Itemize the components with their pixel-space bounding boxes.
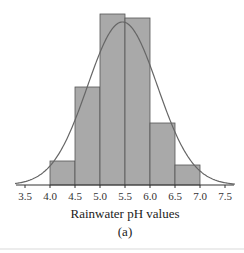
- x-axis-ticks: 3.54.04.55.05.56.06.57.07.5: [18, 185, 232, 202]
- histogram-bar: [50, 161, 75, 185]
- panel-label: (a): [118, 224, 132, 239]
- x-tick-label: 6.5: [168, 190, 182, 202]
- histogram-bar: [125, 18, 150, 185]
- histogram-bars: [50, 14, 200, 185]
- x-tick-label: 7.5: [218, 190, 232, 202]
- x-axis-title: Rainwater pH values: [70, 206, 179, 221]
- x-tick-label: 5.0: [93, 190, 107, 202]
- x-tick-label: 4.5: [68, 190, 82, 202]
- histogram-bar: [75, 87, 100, 185]
- x-tick-label: 6.0: [143, 190, 157, 202]
- bottom-divider: [0, 248, 244, 250]
- x-tick-label: 3.5: [18, 190, 32, 202]
- histogram-bar: [100, 14, 125, 185]
- x-tick-label: 5.5: [118, 190, 132, 202]
- x-tick-label: 7.0: [193, 190, 207, 202]
- histogram-bar: [150, 123, 175, 185]
- x-tick-label: 4.0: [43, 190, 57, 202]
- histogram-chart: 3.54.04.55.05.56.06.57.07.5 Rainwater pH…: [0, 0, 244, 253]
